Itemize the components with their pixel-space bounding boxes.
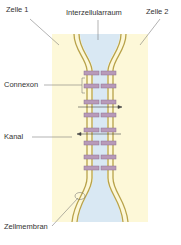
gap-junction-diagram [0,0,181,245]
label-cell-membrane: Zellmembran [4,223,48,231]
label-channel: Kanal [4,133,23,141]
label-cell-2: Zelle 2 [146,8,169,16]
label-intercellular-space: Interzellularraum [66,9,122,17]
label-connexon: Connexon [4,81,38,89]
label-cell-1: Zelle 1 [6,6,29,14]
